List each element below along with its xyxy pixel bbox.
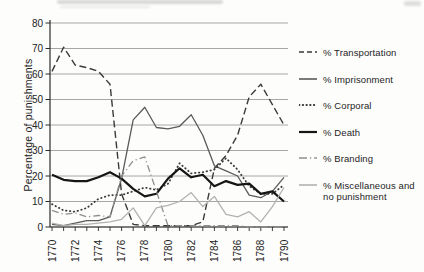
legend-item-death: % Death bbox=[299, 127, 423, 139]
y-axis-title: Percentage of punishments bbox=[22, 55, 34, 195]
legend-label: % Branding bbox=[323, 153, 373, 165]
legend-item-branding: % Branding bbox=[299, 153, 423, 165]
svg-text:1782: 1782 bbox=[186, 239, 197, 262]
svg-text:80: 80 bbox=[32, 18, 44, 29]
scanned-chart-page: 0102030405060708017701772177417761778178… bbox=[0, 0, 424, 272]
transportation-line-key-icon bbox=[299, 50, 317, 54]
legend-item-imprisonment: % Imprisonment bbox=[299, 74, 423, 86]
svg-text:1790: 1790 bbox=[279, 239, 290, 262]
svg-text:1770: 1770 bbox=[47, 239, 58, 262]
svg-text:70: 70 bbox=[32, 43, 44, 54]
corporal-line-key-icon bbox=[299, 103, 317, 107]
svg-text:1776: 1776 bbox=[116, 239, 127, 262]
chart-legend: % Transportation % Imprisonment % Corpor… bbox=[299, 47, 423, 203]
svg-text:1788: 1788 bbox=[255, 239, 266, 262]
svg-text:0: 0 bbox=[37, 222, 43, 233]
svg-text:1780: 1780 bbox=[163, 239, 174, 262]
svg-text:1784: 1784 bbox=[209, 239, 220, 262]
svg-text:1772: 1772 bbox=[70, 239, 81, 262]
death-line-key-icon bbox=[299, 130, 317, 134]
legend-label: % Transportation bbox=[323, 47, 396, 59]
legend-item-miscellaneous: % Miscellaneous and no punishment bbox=[299, 180, 423, 203]
legend-label: % Imprisonment bbox=[323, 74, 393, 86]
legend-label: % Corporal bbox=[323, 100, 372, 112]
legend-item-transportation: % Transportation bbox=[299, 47, 423, 59]
svg-text:1786: 1786 bbox=[232, 239, 243, 262]
svg-text:1778: 1778 bbox=[139, 239, 150, 262]
legend-label: % Death bbox=[323, 127, 360, 139]
svg-text:10: 10 bbox=[32, 196, 44, 207]
legend-item-corporal: % Corporal bbox=[299, 100, 423, 112]
svg-text:1774: 1774 bbox=[93, 239, 104, 262]
legend-label: % Miscellaneous and no punishment bbox=[323, 180, 423, 203]
branding-line-key-icon bbox=[299, 156, 317, 160]
imprisonment-line-key-icon bbox=[299, 77, 317, 81]
miscellaneous-line-key-icon bbox=[299, 183, 317, 187]
